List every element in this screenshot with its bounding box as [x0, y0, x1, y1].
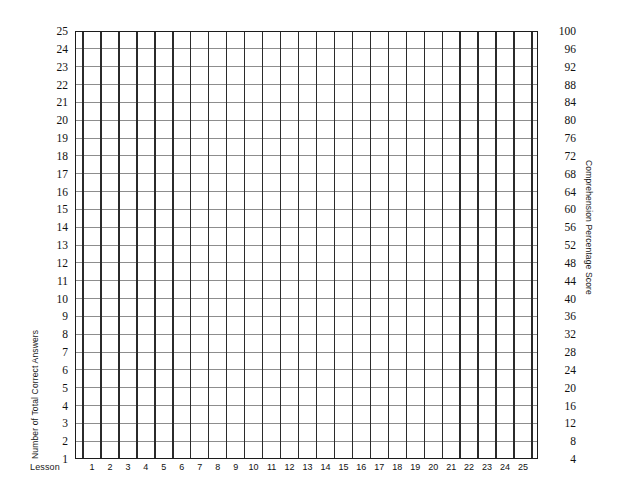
y-axis-tick-label: 12: [40, 256, 68, 270]
secondary-y-axis-tick-label: 44: [546, 274, 576, 288]
y-axis-tick-label: 11: [40, 274, 68, 288]
y-axis-tick-label: 4: [40, 399, 68, 413]
y-axis-tick-label: 6: [40, 363, 68, 377]
grid-lines: [75, 31, 538, 459]
y-axis-tick-label: 14: [40, 220, 68, 234]
chart-container: Number of Total Correct Answers Comprehe…: [0, 0, 620, 502]
secondary-y-axis-tick-label: 56: [546, 220, 576, 234]
secondary-y-axis-tick-label: 52: [546, 238, 576, 252]
x-axis-tick-label: 25: [513, 461, 533, 474]
secondary-y-axis-tick-label: 92: [546, 60, 576, 74]
secondary-y-axis-tick-label: 8: [546, 434, 576, 448]
y-axis-tick-label: 1: [40, 452, 68, 466]
y-axis-tick-label: 19: [40, 131, 68, 145]
secondary-y-axis-tick-label: 28: [546, 345, 576, 359]
secondary-y-axis-tick-label: 24: [546, 363, 576, 377]
secondary-y-axis-tick-label: 80: [546, 113, 576, 127]
secondary-y-axis-tick-label: 100: [546, 24, 576, 38]
secondary-y-axis-tick-label: 72: [546, 149, 576, 163]
plot-grid-area: [75, 31, 538, 459]
y-axis-tick-label: 2: [40, 434, 68, 448]
y-axis-tick-label: 23: [40, 60, 68, 74]
y-axis-tick-label: 17: [40, 167, 68, 181]
secondary-y-axis-tick-label: 84: [546, 95, 576, 109]
y-axis-tick-label: 21: [40, 95, 68, 109]
secondary-y-axis-tick-label: 40: [546, 292, 576, 306]
y-axis-tick-label: 7: [40, 345, 68, 359]
y-axis-tick-label: 16: [40, 185, 68, 199]
y-axis-tick-label: 20: [40, 113, 68, 127]
y-axis-tick-labels: 2524232221201918171615141312111098765432…: [40, 31, 68, 459]
y-axis-tick-label: 10: [40, 292, 68, 306]
secondary-y-axis-tick-label: 64: [546, 185, 576, 199]
x-axis-tick-labels: 1234567891011121314151617181920212223242…: [75, 461, 538, 475]
secondary-y-axis-tick-label: 96: [546, 42, 576, 56]
secondary-y-axis-tick-label: 36: [546, 309, 576, 323]
secondary-y-axis-tick-label: 12: [546, 416, 576, 430]
y-axis-tick-label: 22: [40, 78, 68, 92]
secondary-y-axis-tick-label: 48: [546, 256, 576, 270]
secondary-y-axis-tick-label: 60: [546, 202, 576, 216]
secondary-y-axis-tick-label: 4: [546, 452, 576, 466]
y-axis-tick-label: 18: [40, 149, 68, 163]
secondary-y-axis-tick-label: 88: [546, 78, 576, 92]
y-axis-tick-label: 3: [40, 416, 68, 430]
y-axis-tick-label: 24: [40, 42, 68, 56]
y-axis-tick-label: 8: [40, 327, 68, 341]
secondary-y-axis-tick-label: 16: [546, 399, 576, 413]
secondary-y-axis-title: Comprehension Percentage Score: [582, 160, 596, 502]
secondary-y-axis-tick-labels: 1009692888480767268646056524844403632282…: [546, 31, 576, 459]
y-axis-tick-label: 5: [40, 381, 68, 395]
secondary-y-axis-tick-label: 68: [546, 167, 576, 181]
secondary-y-axis-tick-label: 76: [546, 131, 576, 145]
secondary-y-axis-tick-label: 32: [546, 327, 576, 341]
y-axis-tick-label: 15: [40, 202, 68, 216]
secondary-y-axis-tick-label: 20: [546, 381, 576, 395]
y-axis-tick-label: 9: [40, 309, 68, 323]
y-axis-tick-label: 13: [40, 238, 68, 252]
y-axis-tick-label: 25: [40, 24, 68, 38]
